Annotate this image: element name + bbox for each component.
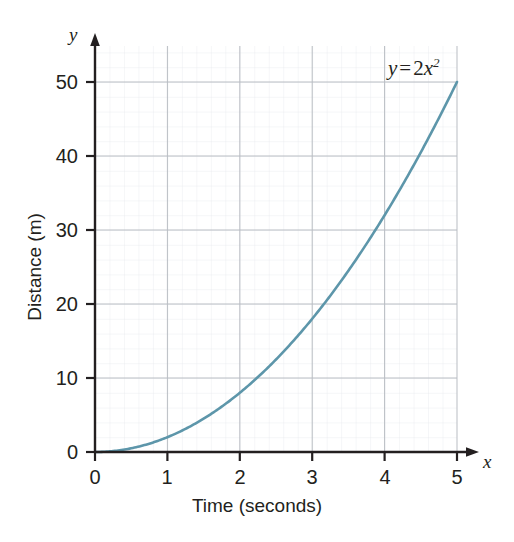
x-axis-title: Time (seconds) [192, 496, 322, 515]
x-tick-label-3: 3 [306, 467, 317, 487]
x-tick-label-0: 0 [89, 467, 100, 487]
x-tick-label-1: 1 [161, 467, 172, 487]
equation-variable: x [424, 56, 433, 80]
x-tick-label-4: 4 [379, 467, 390, 487]
y-axis-variable-name: y [69, 25, 77, 44]
curve-equation-annotation: y=2x2 [388, 56, 440, 79]
grid-area [95, 46, 457, 452]
y-axis-arrowhead [90, 33, 100, 46]
y-axis-title: Distance (m) [25, 213, 44, 321]
y-tick-label-0: 0 [26, 442, 78, 462]
equation-lhs: y [388, 56, 397, 80]
x-axis-ticks [95, 452, 457, 461]
y-tick-label-50: 50 [26, 72, 78, 92]
chart-figure: 50 40 30 20 10 0 0 1 2 3 4 5 y x Time (s… [0, 0, 514, 542]
equation-exponent: 2 [433, 55, 440, 70]
y-axis-ticks [86, 82, 95, 452]
x-axis-variable-name: x [483, 452, 491, 471]
minor-gridlines [95, 46, 457, 452]
x-tick-label-5: 5 [451, 467, 462, 487]
equation-coefficient: 2 [413, 56, 424, 80]
y-tick-label-10: 10 [26, 368, 78, 388]
y-tick-label-40: 40 [26, 146, 78, 166]
equation-operator: = [397, 56, 413, 80]
x-axis-arrowhead [466, 447, 479, 457]
x-tick-label-2: 2 [234, 467, 245, 487]
